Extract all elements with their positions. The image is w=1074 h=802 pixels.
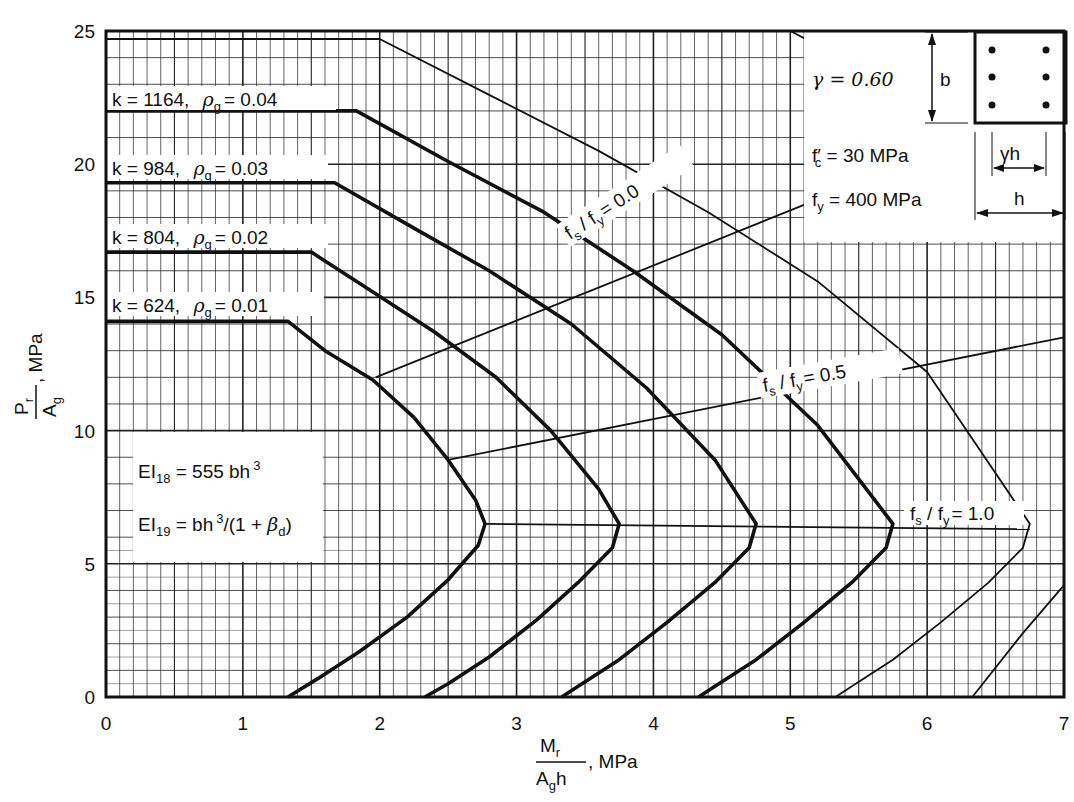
svg-text:h: h xyxy=(1014,188,1025,209)
svg-text:Pr: Pr xyxy=(11,397,36,415)
x-tick-label: 6 xyxy=(922,713,933,734)
y-tick-label: 15 xyxy=(74,287,95,308)
parameter-panel: γ = 0.60 f′c = 30 MPa fy = 400 MPa b xyxy=(804,0,1074,242)
x-tick-label: 1 xyxy=(238,713,249,734)
x-tick-label: 2 xyxy=(374,713,385,734)
interaction-diagram: k = 1164, ρg= 0.04 k = 984, ρg= 0.03 k =… xyxy=(0,0,1074,802)
y-axis-label: Pr Ag , MPa xyxy=(11,333,64,419)
stiffness-note-box: EI18 = 555 bh3 EI19 = bh3/(1 + βd) xyxy=(133,432,323,562)
y-tick-label: 25 xyxy=(74,21,95,42)
x-tick-label: 3 xyxy=(511,713,522,734)
svg-text:Agh: Agh xyxy=(536,768,567,793)
fs-fy-0.0-label: fs / fy= 0.0 xyxy=(561,180,645,247)
column-section-icon xyxy=(975,32,1066,123)
x-tick-label: 7 xyxy=(1059,713,1070,734)
svg-text:b: b xyxy=(940,69,951,90)
svg-text:, MPa: , MPa xyxy=(25,333,46,383)
y-tick-label: 0 xyxy=(84,687,95,708)
x-axis-label: Mr Agh , MPa xyxy=(536,735,638,793)
x-axis-ticks: 01234567 xyxy=(101,713,1070,734)
svg-text:, MPa: , MPa xyxy=(588,751,638,772)
svg-text:Mr: Mr xyxy=(540,735,561,760)
y-axis-ticks: 0510152025 xyxy=(74,21,95,708)
strain-line-1 xyxy=(448,337,1064,460)
x-tick-label: 4 xyxy=(648,713,659,734)
y-tick-label: 5 xyxy=(84,554,95,575)
x-tick-label: 0 xyxy=(101,713,112,734)
y-tick-label: 10 xyxy=(74,421,95,442)
x-tick-label: 5 xyxy=(785,713,796,734)
series-labels: k = 1164, ρg= 0.04 k = 984, ρg= 0.03 k =… xyxy=(104,86,336,320)
y-tick-label: 20 xyxy=(74,154,95,175)
gamma-param: γ = 0.60 xyxy=(812,68,894,90)
svg-text:Ag: Ag xyxy=(39,397,64,417)
svg-text:γh: γh xyxy=(1000,143,1020,164)
